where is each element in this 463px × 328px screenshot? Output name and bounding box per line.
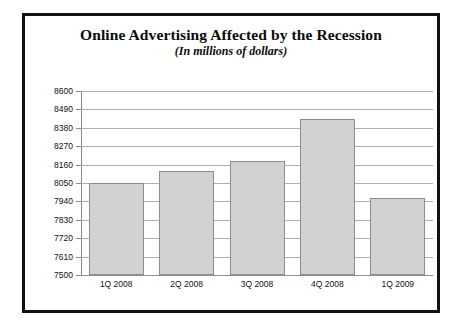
gridline	[81, 275, 433, 276]
y-axis-tick-label: 7610	[54, 252, 73, 262]
y-axis-tick-label: 8270	[54, 141, 73, 151]
y-axis-tick-mark	[76, 109, 81, 110]
plot-area: 8600849083808270816080507940783077207610…	[81, 91, 433, 275]
chart-title-block: Online Advertising Affected by the Reces…	[25, 25, 437, 59]
y-axis-tick-label: 7830	[54, 215, 73, 225]
y-axis-tick-mark	[76, 238, 81, 239]
y-axis-tick-mark	[76, 201, 81, 202]
y-axis-tick-label: 8490	[54, 104, 73, 114]
gridline	[81, 109, 433, 110]
chart-figure-frame: Online Advertising Affected by the Reces…	[22, 13, 440, 313]
y-axis-tick-label: 8160	[54, 160, 73, 170]
chart-subtitle: (In millions of dollars)	[25, 44, 437, 59]
y-axis-tick-mark	[76, 257, 81, 258]
y-axis-tick-label: 7500	[54, 270, 73, 280]
x-axis-tick-label: 1Q 2009	[381, 279, 414, 289]
y-axis-tick-label: 7940	[54, 196, 73, 206]
bar	[300, 119, 355, 275]
y-axis-tick-mark	[76, 165, 81, 166]
bar	[230, 161, 285, 275]
y-axis-tick-label: 8600	[54, 86, 73, 96]
y-axis-tick-mark	[76, 183, 81, 184]
x-axis-tick-label: 2Q 2008	[170, 279, 203, 289]
bar	[89, 183, 144, 275]
page-title: Online Advertising Affected by the Reces…	[25, 25, 437, 44]
y-axis-tick-mark	[76, 275, 81, 276]
y-axis-tick-label: 8050	[54, 178, 73, 188]
gridline	[81, 128, 433, 129]
y-axis-tick-mark	[76, 220, 81, 221]
y-axis-tick-mark	[76, 128, 81, 129]
y-axis-tick-label: 8380	[54, 123, 73, 133]
y-axis-tick-label: 7720	[54, 233, 73, 243]
x-axis-tick-label: 3Q 2008	[241, 279, 274, 289]
y-axis-tick-mark	[76, 91, 81, 92]
gridline	[81, 91, 433, 92]
bar	[370, 198, 425, 275]
x-axis-tick-label: 4Q 2008	[311, 279, 344, 289]
x-axis-tick-label: 1Q 2008	[100, 279, 133, 289]
gridline	[81, 146, 433, 147]
bar	[159, 171, 214, 275]
y-axis-tick-mark	[76, 146, 81, 147]
